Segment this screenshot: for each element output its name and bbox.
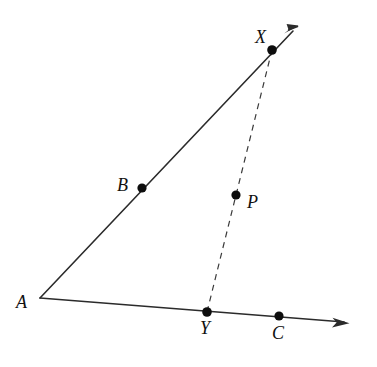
geometry-canvas <box>0 0 377 367</box>
label-point-c: C <box>272 324 284 342</box>
label-point-x: X <box>255 28 266 46</box>
geometry-diagram: A B X P Y C <box>0 0 377 367</box>
label-point-b: B <box>117 176 128 194</box>
point-dot-y <box>202 307 212 317</box>
ray-a-to-c <box>40 298 344 322</box>
point-dot-b <box>137 183 146 192</box>
point-dot-x <box>267 45 277 55</box>
ray-a-to-x <box>40 31 293 298</box>
label-point-a: A <box>16 293 27 311</box>
segment-x-to-y <box>207 50 272 312</box>
arrowhead-ray-ac <box>332 318 350 328</box>
label-point-y: Y <box>200 319 210 337</box>
point-dot-c <box>274 311 283 320</box>
point-dot-p <box>231 190 240 199</box>
label-point-p: P <box>247 193 258 211</box>
